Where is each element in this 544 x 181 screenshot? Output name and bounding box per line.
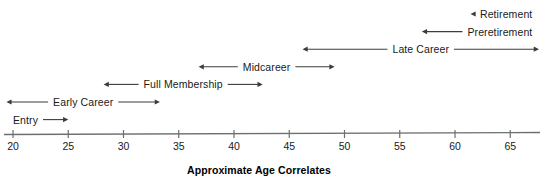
stage-label-midcareer: Midcareer (243, 61, 291, 73)
arrowhead-left (470, 11, 475, 16)
arrowhead-right (63, 117, 68, 122)
axis-tick-label: 20 (7, 140, 19, 152)
axis-tick-label: 65 (504, 140, 516, 152)
stage-label-preretirement: Preretirement (467, 26, 532, 38)
stage-label-early-career: Early Career (53, 96, 113, 108)
stage-label-full-membership: Full Membership (144, 78, 223, 90)
arrowhead-left (199, 64, 204, 69)
axis-tick-label: 30 (118, 140, 130, 152)
stage-label-entry: Entry (13, 114, 38, 126)
axis-tick-label: 45 (283, 140, 295, 152)
arrowhead-left (422, 29, 427, 34)
axis-tick-label: 55 (394, 140, 406, 152)
arrowhead-right (534, 47, 539, 52)
axis-tick-label: 25 (62, 140, 74, 152)
career-stage-timeline-figure: RetirementPreretirementLate CareerMidcar… (0, 0, 544, 181)
arrowhead-left (6, 99, 11, 104)
axis-tick-label: 35 (173, 140, 185, 152)
axis-line (4, 133, 540, 135)
stage-label-late-career: Late Career (392, 43, 449, 55)
arrowhead-left (104, 82, 109, 87)
arrowhead-right (329, 64, 334, 69)
axis-tick-label: 40 (228, 140, 240, 152)
arrowhead-left (303, 47, 308, 52)
axis-caption: Approximate Age Correlates (187, 164, 331, 176)
arrowhead-right (155, 99, 160, 104)
stage-label-retirement: Retirement (480, 8, 532, 20)
timeline-graphics (0, 0, 544, 181)
arrowhead-right (258, 82, 263, 87)
axis-tick-label: 50 (339, 140, 351, 152)
axis-tick-label: 60 (449, 140, 461, 152)
